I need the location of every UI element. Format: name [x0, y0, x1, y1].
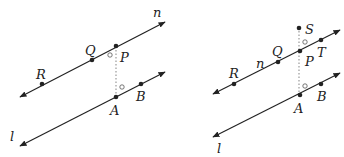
- line-label-l: l: [10, 129, 14, 144]
- point-label-S: S: [305, 22, 314, 37]
- point-label-R: R: [35, 67, 46, 82]
- point-label-A: A: [109, 103, 119, 118]
- point-P: [298, 49, 303, 54]
- line-label-n: n: [256, 56, 264, 71]
- right-angle-mark-icon: [108, 53, 112, 57]
- point-label-T: T: [317, 45, 327, 60]
- right-angle-mark-icon: [120, 85, 124, 89]
- point-label-P: P: [119, 50, 129, 65]
- point-R: [232, 82, 237, 87]
- point-R: [40, 82, 45, 87]
- point-P: [114, 44, 119, 49]
- point-label-P: P: [304, 54, 314, 69]
- point-A: [298, 93, 303, 98]
- right-angle-mark-icon: [303, 40, 307, 44]
- point-label-R: R: [228, 66, 239, 81]
- diagram-svg: RQPABnlRQPTSABnl: [0, 0, 344, 157]
- point-B: [319, 82, 324, 87]
- point-label-B: B: [135, 89, 146, 104]
- point-A: [114, 95, 119, 100]
- point-T: [319, 38, 324, 43]
- point-Q: [276, 60, 281, 65]
- line-label-l: l: [217, 141, 221, 156]
- point-B: [139, 82, 144, 87]
- point-S: [297, 26, 302, 31]
- point-label-A: A: [293, 101, 303, 116]
- point-label-B: B: [316, 89, 327, 104]
- point-label-Q: Q: [272, 44, 283, 59]
- geometry-diagram: RQPABnlRQPTSABnl: [0, 0, 344, 157]
- point-Q: [90, 58, 95, 63]
- right-angle-mark-icon: [303, 84, 307, 88]
- line-label-n: n: [153, 5, 161, 20]
- point-label-Q: Q: [85, 43, 96, 58]
